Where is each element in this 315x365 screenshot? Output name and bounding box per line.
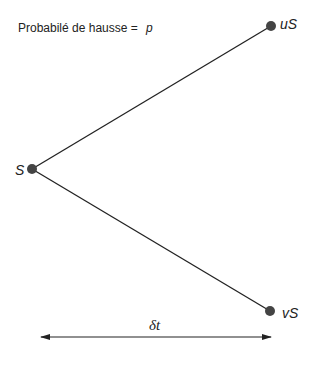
label-start: S	[15, 162, 25, 178]
time-step-label: δt	[149, 317, 161, 333]
label-up: uS	[280, 16, 298, 32]
node-down	[265, 306, 275, 316]
node-start	[27, 164, 37, 174]
label-down: vS	[282, 305, 299, 321]
up-branch	[32, 26, 271, 169]
node-up	[266, 21, 276, 31]
down-branch	[32, 169, 270, 311]
probability-symbol: p	[145, 21, 153, 35]
probability-label: Probabilé de hausse =	[18, 21, 138, 35]
binomial-tree-diagram: Probabilé de hausse = p S uS vS δt	[0, 0, 315, 365]
